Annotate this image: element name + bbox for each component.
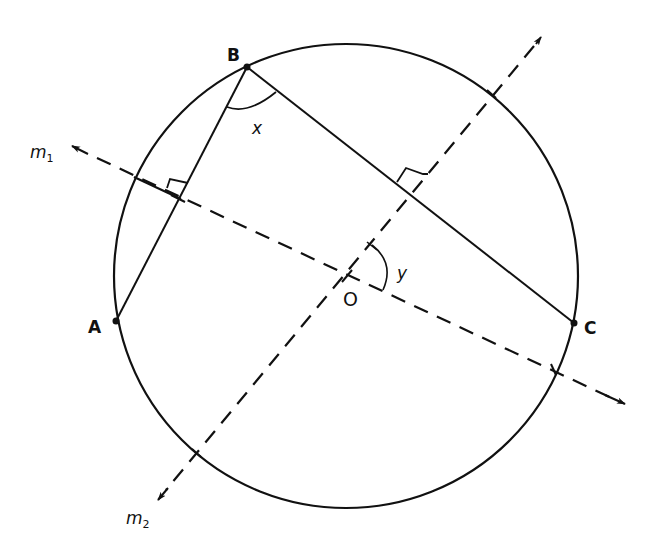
label-b: B bbox=[227, 45, 240, 65]
label-angle-y: y bbox=[396, 263, 408, 283]
line-m2 bbox=[158, 37, 541, 500]
point-b bbox=[244, 64, 251, 71]
angle-arc-y bbox=[372, 245, 387, 290]
label-angle-x: x bbox=[251, 118, 263, 138]
label-c: C bbox=[584, 318, 596, 338]
segment-ab bbox=[116, 67, 247, 321]
point-a bbox=[113, 318, 120, 325]
segment-bc bbox=[247, 67, 574, 323]
point-c bbox=[571, 320, 578, 327]
right-angle-mark-bc bbox=[397, 168, 428, 182]
label-m1: m1 bbox=[30, 142, 54, 165]
label-a: A bbox=[88, 317, 102, 337]
label-m2: m2 bbox=[126, 508, 150, 531]
angle-arc-x bbox=[227, 92, 276, 109]
label-o: O bbox=[343, 288, 358, 310]
tick-marks bbox=[171, 90, 556, 457]
geometry-diagram: B A C O x y m1 m2 bbox=[0, 0, 656, 544]
